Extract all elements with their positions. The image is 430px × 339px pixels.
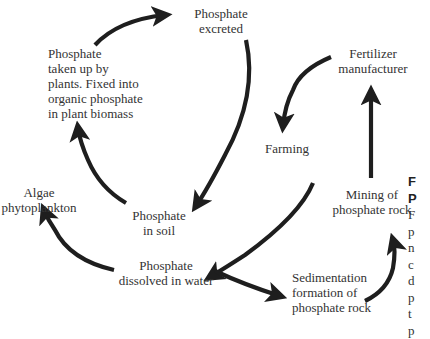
node-label: plants. Fixed into (48, 76, 143, 91)
node-label: organic phosphate (48, 91, 143, 106)
node-label: Fertilizer (328, 46, 418, 61)
figure-caption-clipped: F P F p n c d p t p (408, 174, 430, 339)
node-label: Phosphate (48, 46, 143, 61)
node-farming: Farming (252, 141, 322, 156)
arrow-fertilizer-to-farming (283, 57, 331, 126)
caption-text: p (408, 290, 430, 307)
node-phosphate-excreted: Phosphate excreted (176, 6, 266, 36)
node-mining-phosphate-rock: Mining of phosphate rock (326, 187, 418, 217)
node-algae-phytoplankton: Algae phytoplankton (0, 185, 78, 215)
node-label: in plant biomass (48, 106, 143, 121)
arrow-dissolved-to-algae (44, 210, 114, 270)
caption-text: t (408, 306, 430, 323)
node-label: phytoplankton (0, 200, 78, 215)
caption-text: p (408, 323, 430, 339)
caption-title: P (408, 191, 430, 208)
node-label: Farming (252, 141, 322, 156)
node-label: formation of (292, 285, 371, 300)
node-phosphate-taken-up-by-plants: Phosphate taken up by plants. Fixed into… (48, 46, 143, 121)
node-label: Phosphate (124, 208, 194, 223)
node-label: in soil (124, 223, 194, 238)
node-phosphate-in-soil: Phosphate in soil (124, 208, 194, 238)
node-label: Algae (0, 185, 78, 200)
caption-text: d (408, 273, 430, 290)
node-label: phosphate rock (326, 202, 418, 217)
arrow-soil-to-plants (78, 128, 126, 203)
node-label: Phosphate (116, 258, 216, 273)
node-label: dissolved in water (116, 273, 216, 288)
caption-title: F (408, 174, 430, 191)
caption-text: p (408, 224, 430, 241)
arrow-farming-to-dissolved (210, 183, 313, 277)
node-fertilizer-manufacturer: Fertilizer manufacturer (328, 46, 418, 76)
node-label: Phosphate (176, 6, 266, 21)
arrow-dissolved-to-sediment (215, 271, 280, 296)
node-label: excreted (176, 21, 266, 36)
node-label: manufacturer (328, 61, 418, 76)
node-sedimentation: Sedimentation formation of phosphate roc… (292, 270, 371, 315)
caption-text: n (408, 240, 430, 257)
arrow-excreted-to-soil (196, 40, 249, 206)
caption-text: c (408, 257, 430, 274)
node-label: Sedimentation (292, 270, 371, 285)
node-phosphate-dissolved-in-water: Phosphate dissolved in water (116, 258, 216, 288)
node-label: taken up by (48, 61, 143, 76)
node-label: phosphate rock (292, 300, 371, 315)
node-label: Mining of (326, 187, 418, 202)
caption-text: F (408, 207, 430, 224)
arrow-plants-to-excreted (95, 15, 165, 45)
